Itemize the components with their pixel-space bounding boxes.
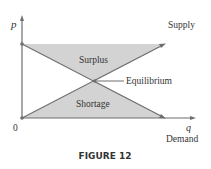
surplus-label: Surplus (79, 55, 108, 65)
shortage-label: Shortage (76, 99, 110, 109)
x-axis-label: q (186, 122, 191, 133)
supply-arrow-icon (159, 44, 166, 49)
equilibrium-label: Equilibrium (126, 76, 173, 86)
supply-demand-diagram: p Supply Surplus Equilibrium Shortage 0 … (0, 0, 211, 169)
supply-label: Supply (168, 20, 195, 30)
y-axis-label: p (10, 18, 17, 30)
figure-caption: FIGURE 12 (79, 151, 132, 161)
demand-intercept-dot (20, 42, 24, 46)
origin-label: 0 (13, 123, 18, 133)
equilibrium-point (93, 79, 97, 83)
y-axis-arrow-icon (20, 15, 24, 21)
x-axis-arrow-icon (190, 116, 196, 120)
demand-arrow-icon (159, 114, 166, 119)
demand-label: Demand (166, 134, 198, 144)
supply-intercept-dot (20, 116, 24, 120)
